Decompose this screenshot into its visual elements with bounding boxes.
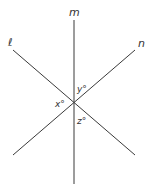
line-label-l: ℓ <box>7 36 13 49</box>
line-label-m: m <box>69 6 80 19</box>
line-label-n: n <box>138 37 145 50</box>
angle-label-y: y° <box>76 84 87 94</box>
intersecting-lines-diagram: m ℓ n x° y° z° <box>0 0 150 188</box>
angle-label-z: z° <box>76 116 86 126</box>
angle-label-x: x° <box>54 99 65 109</box>
